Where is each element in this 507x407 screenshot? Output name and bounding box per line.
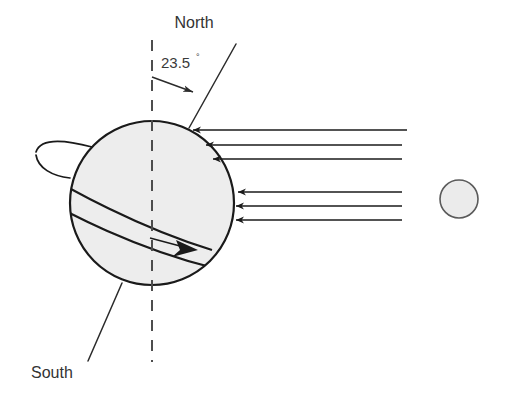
tilt-angle-value: 23.5 [161, 54, 190, 71]
sun-circle [440, 180, 478, 218]
earth-sun-tilt-diagram: North South 23.5 ° [0, 0, 507, 407]
degree-symbol: ° [196, 52, 200, 62]
south-label: South [31, 364, 73, 381]
diagram-canvas: North South 23.5 ° [0, 0, 507, 407]
north-label: North [174, 14, 213, 31]
